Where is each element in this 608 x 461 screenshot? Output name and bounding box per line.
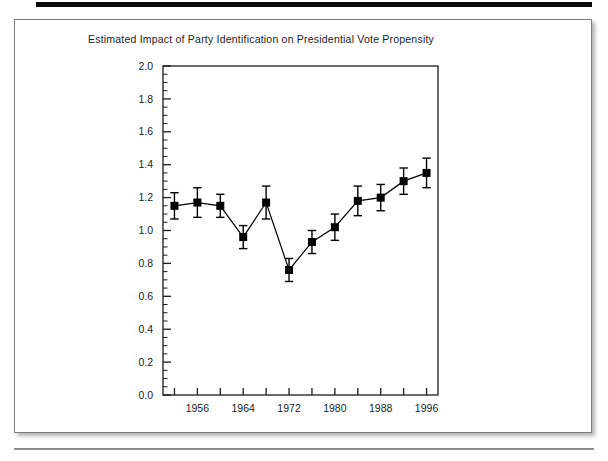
bottom-horizontal-rule <box>14 448 594 450</box>
data-point-group <box>216 194 224 217</box>
data-point-group <box>422 158 430 188</box>
data-point-marker <box>262 199 270 207</box>
y-axis-tick-label: 0.6 <box>138 290 153 302</box>
data-point-marker <box>216 202 224 210</box>
x-axis-tick-label: 1964 <box>232 402 256 414</box>
x-axis-tick-label: 1956 <box>186 402 210 414</box>
y-axis-tick-label: 0.8 <box>138 257 153 269</box>
x-axis-tick-label: 1972 <box>277 402 301 414</box>
data-point-marker <box>308 238 316 246</box>
page-root: Estimated Impact of Party Identification… <box>0 0 608 461</box>
y-axis-tick-label: 0.0 <box>138 389 153 401</box>
data-point-group <box>331 214 339 240</box>
data-point-marker <box>239 233 247 241</box>
top-horizontal-rule <box>36 2 592 7</box>
data-point-marker <box>377 194 385 202</box>
x-axis-tick-label: 1980 <box>323 402 347 414</box>
data-point-group <box>239 226 247 249</box>
data-point-marker <box>423 169 431 177</box>
data-point-group <box>308 231 316 254</box>
y-axis-tick-label: 1.2 <box>138 191 153 203</box>
data-point-group <box>170 193 178 219</box>
y-axis-tick-label: 1.0 <box>138 224 153 236</box>
data-point-group <box>193 188 201 218</box>
data-point-marker <box>400 177 408 185</box>
data-point-marker <box>354 197 362 205</box>
data-point-marker <box>331 223 339 231</box>
data-point-group <box>399 168 407 194</box>
x-axis-tick-label: 1988 <box>369 402 393 414</box>
data-point-group <box>377 184 385 210</box>
figure-card: Estimated Impact of Party Identification… <box>14 19 592 433</box>
y-axis-tick-label: 0.2 <box>138 356 153 368</box>
x-axis-tick-label: 1996 <box>415 402 439 414</box>
data-point-group <box>262 186 270 219</box>
y-axis-tick-label: 2.0 <box>138 60 153 72</box>
y-axis-tick-label: 0.4 <box>138 323 153 335</box>
data-line <box>174 173 426 270</box>
y-axis-tick-label: 1.6 <box>138 125 153 137</box>
plot-area: 0.00.20.40.60.81.01.21.41.61.82.01956196… <box>15 20 593 434</box>
data-point-marker <box>285 266 293 274</box>
data-point-group <box>354 186 362 216</box>
plot-frame <box>163 66 438 395</box>
y-axis-tick-label: 1.8 <box>138 93 153 105</box>
data-point-marker <box>170 202 178 210</box>
y-axis-tick-label: 1.4 <box>138 158 153 170</box>
data-point-marker <box>193 199 201 207</box>
chart-svg: 0.00.20.40.60.81.01.21.41.61.82.01956196… <box>15 20 593 434</box>
